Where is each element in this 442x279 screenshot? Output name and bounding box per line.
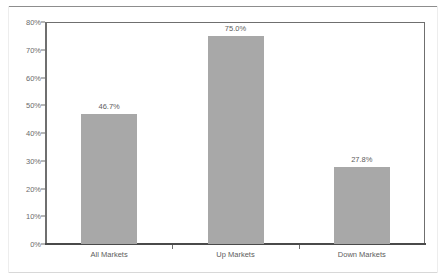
y-axis-tick-mark bbox=[41, 77, 45, 78]
y-axis-line bbox=[45, 22, 47, 245]
bar-chart-figure: 80%70%60%50%40%30%20%10%0% 46.7%75.0%27.… bbox=[0, 0, 442, 279]
x-axis-category-label: Down Markets bbox=[338, 250, 386, 259]
y-axis-tick-mark bbox=[41, 216, 45, 217]
y-axis-tick-label: 50% bbox=[0, 101, 41, 110]
figure-border-bottom bbox=[8, 272, 438, 273]
y-axis-tick-label: 30% bbox=[0, 156, 41, 165]
figure-border-top bbox=[8, 6, 438, 7]
y-axis-tick-mark bbox=[41, 188, 45, 189]
y-axis-tick-mark bbox=[41, 22, 45, 23]
y-axis-tick-label: 70% bbox=[0, 45, 41, 54]
x-axis-tick-mark bbox=[172, 245, 173, 249]
x-axis-category-label: Up Markets bbox=[216, 250, 254, 259]
x-axis-category-label: All Markets bbox=[91, 250, 128, 259]
y-axis-tick-label: 10% bbox=[0, 212, 41, 221]
y-axis-tick-mark bbox=[41, 244, 45, 245]
bar-value-label: 46.7% bbox=[99, 102, 120, 111]
bar-value-label: 75.0% bbox=[225, 24, 246, 33]
bar-value-label: 27.8% bbox=[351, 155, 372, 164]
bar bbox=[334, 167, 390, 244]
bar bbox=[81, 114, 137, 244]
y-axis-tick-mark bbox=[41, 133, 45, 134]
y-axis-tick-label: 40% bbox=[0, 129, 41, 138]
y-axis-tick-label: 0% bbox=[0, 240, 41, 249]
figure-border-right bbox=[437, 6, 438, 273]
y-axis-tick-mark bbox=[41, 49, 45, 50]
y-axis-tick-mark bbox=[41, 105, 45, 106]
bar bbox=[208, 36, 264, 244]
y-axis-tick-label: 80% bbox=[0, 18, 41, 27]
y-axis-tick-label: 20% bbox=[0, 184, 41, 193]
y-axis-tick-mark bbox=[41, 160, 45, 161]
y-axis-tick-labels: 80%70%60%50%40%30%20%10%0% bbox=[0, 0, 41, 279]
y-axis-tick-label: 60% bbox=[0, 73, 41, 82]
x-axis-tick-mark bbox=[299, 245, 300, 249]
